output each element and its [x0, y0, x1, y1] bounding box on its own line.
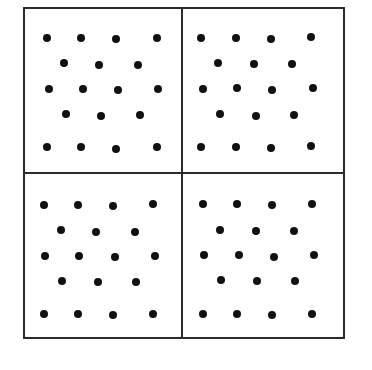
dot: [109, 202, 117, 210]
dot: [74, 310, 82, 318]
dot: [309, 84, 317, 92]
dot: [197, 143, 205, 151]
dot: [200, 251, 208, 259]
horizontal-divider: [23, 172, 345, 174]
dot: [308, 200, 316, 208]
dot: [307, 142, 315, 150]
dot: [199, 85, 207, 93]
dot: [79, 85, 87, 93]
dot: [291, 277, 299, 285]
dot: [62, 110, 70, 118]
dot-grid-figure: [0, 0, 372, 370]
dot: [214, 59, 222, 67]
dot: [199, 310, 207, 318]
dot: [307, 33, 315, 41]
dot: [40, 201, 48, 209]
dot: [232, 143, 240, 151]
dot: [149, 310, 157, 318]
dot: [112, 145, 120, 153]
dot: [216, 110, 224, 118]
dot: [153, 143, 161, 151]
dot: [253, 277, 261, 285]
dot: [270, 253, 278, 261]
dot: [77, 34, 85, 42]
dot: [43, 34, 51, 42]
dot: [233, 310, 241, 318]
dot: [310, 251, 318, 259]
dot: [290, 111, 298, 119]
dot: [112, 35, 120, 43]
dot: [43, 143, 51, 151]
dot: [149, 200, 157, 208]
dot: [268, 201, 276, 209]
dot: [97, 112, 105, 120]
dot: [267, 35, 275, 43]
dot: [92, 228, 100, 236]
dot: [57, 226, 65, 234]
dot: [153, 34, 161, 42]
dot: [268, 86, 276, 94]
dot: [268, 311, 276, 319]
dot: [267, 144, 275, 152]
dot: [288, 60, 296, 68]
dot: [58, 277, 66, 285]
dot: [131, 228, 139, 236]
dot: [40, 310, 48, 318]
dot: [235, 251, 243, 259]
dot: [216, 226, 224, 234]
dot: [114, 86, 122, 94]
dot: [111, 253, 119, 261]
dot: [94, 278, 102, 286]
dot: [109, 311, 117, 319]
dot: [77, 143, 85, 151]
dot: [95, 61, 103, 69]
dot: [252, 112, 260, 120]
dot: [132, 278, 140, 286]
dot: [217, 276, 225, 284]
dot: [232, 34, 240, 42]
dot: [151, 252, 159, 260]
dot: [60, 59, 68, 67]
dot: [199, 200, 207, 208]
dot: [250, 60, 258, 68]
dot: [308, 310, 316, 318]
dot: [233, 200, 241, 208]
dot: [290, 227, 298, 235]
dot: [154, 85, 162, 93]
dot: [75, 252, 83, 260]
dot: [252, 227, 260, 235]
dot: [74, 201, 82, 209]
dot: [197, 34, 205, 42]
dot: [233, 84, 241, 92]
dot: [136, 111, 144, 119]
dot: [45, 85, 53, 93]
dot: [134, 61, 142, 69]
dot: [41, 252, 49, 260]
